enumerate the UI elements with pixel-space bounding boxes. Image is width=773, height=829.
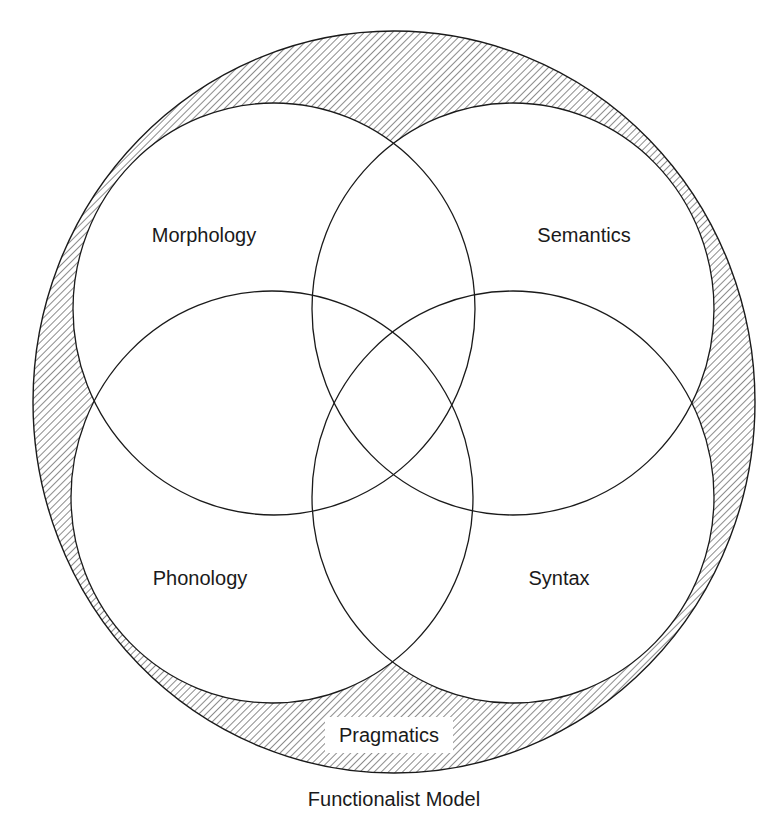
diagram-title: Functionalist Model xyxy=(308,788,480,810)
semantics-label: Semantics xyxy=(537,224,630,246)
inner-fills xyxy=(71,103,714,703)
syntax-label: Syntax xyxy=(528,567,589,589)
pragmatics-label: Pragmatics xyxy=(339,724,439,746)
morphology-label: Morphology xyxy=(152,224,257,246)
phonology-label: Phonology xyxy=(153,567,248,589)
functionalist-model-diagram: Morphology Semantics Phonology Syntax Pr… xyxy=(0,0,773,829)
